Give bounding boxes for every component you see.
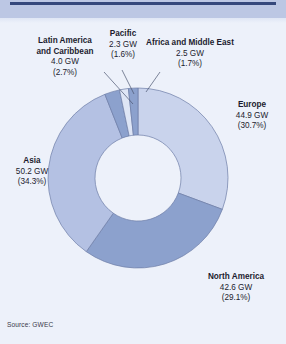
slice-label-europe-value: 44.9 GW (221, 111, 283, 122)
slice-label-europe: Europe 44.9 GW (30.7%) (221, 100, 283, 132)
slice-label-africa-middle-east-percent: (1.7%) (139, 59, 241, 70)
donut-slice-north-america[interactable] (86, 193, 222, 268)
donut-slice-group (48, 88, 228, 268)
slice-label-latin-america-percent: (2.7%) (22, 68, 108, 79)
slice-label-north-america: North America 42.6 GW (29.1%) (190, 272, 282, 304)
slice-label-asia-name: Asia (2, 156, 62, 167)
slice-label-europe-name: Europe (221, 100, 283, 111)
slice-label-africa-middle-east-value: 2.5 GW (139, 49, 241, 60)
slice-label-latin-america-name-line1: Latin America (22, 36, 108, 47)
slice-label-north-america-percent: (29.1%) (190, 293, 282, 304)
slice-label-north-america-name: North America (190, 272, 282, 283)
slice-label-africa-middle-east-name: Africa and Middle East (139, 38, 241, 49)
slice-label-asia-percent: (34.3%) (2, 177, 62, 188)
source-note: Source: GWEC (7, 321, 53, 328)
slice-label-europe-percent: (30.7%) (221, 121, 283, 132)
donut-slice-europe[interactable] (138, 88, 228, 209)
chart-page: Latin America and Caribbean 4.0 GW (2.7%… (0, 0, 286, 344)
slice-label-latin-america-name-line2: and Caribbean (22, 47, 108, 58)
slice-label-latin-america: Latin America and Caribbean 4.0 GW (2.7%… (22, 36, 108, 78)
slice-label-latin-america-value: 4.0 GW (22, 57, 108, 68)
slice-label-asia: Asia 50.2 GW (34.3%) (2, 156, 62, 188)
slice-label-north-america-value: 42.6 GW (190, 283, 282, 294)
slice-label-africa-middle-east: Africa and Middle East 2.5 GW (1.7%) (139, 38, 241, 70)
slice-label-asia-value: 50.2 GW (2, 167, 62, 178)
